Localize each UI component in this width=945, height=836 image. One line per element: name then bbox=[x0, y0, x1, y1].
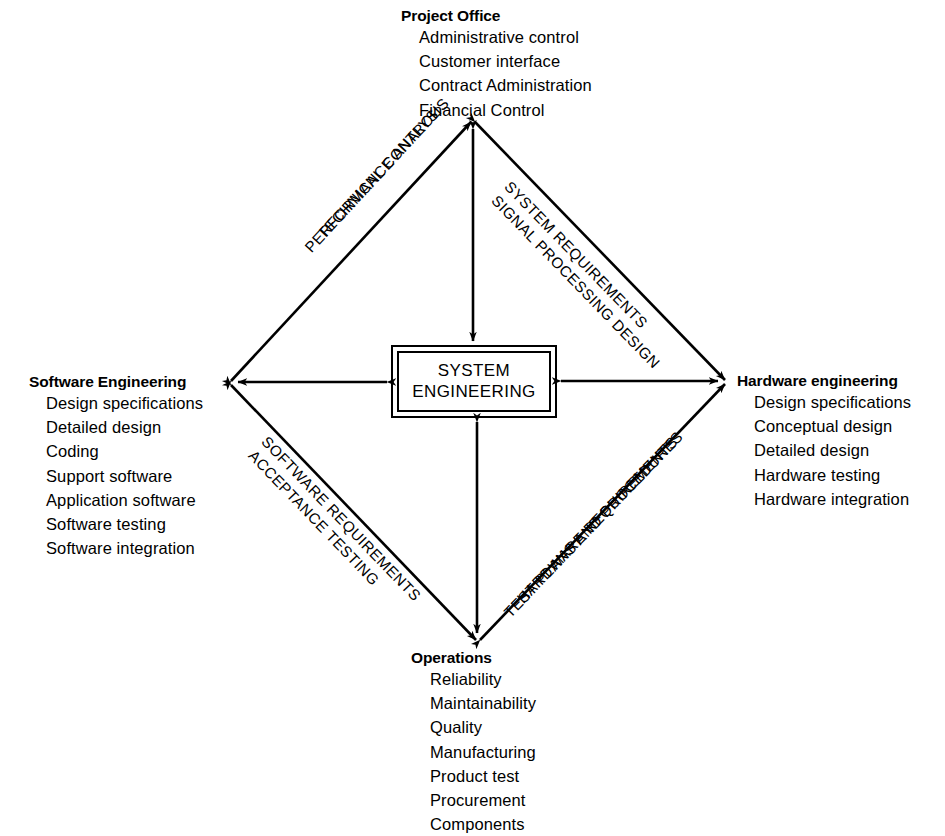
list-item: Manufacturing bbox=[430, 740, 536, 764]
corner-heading-software-engineering: Software Engineering bbox=[29, 372, 203, 391]
corner-items-software-engineering: Design specifications Detailed design Co… bbox=[46, 391, 203, 560]
system-engineering-label: SYSTEM ENGINEERING bbox=[412, 361, 535, 402]
list-item: Design specifications bbox=[754, 390, 911, 414]
list-item: Application software bbox=[46, 488, 203, 512]
list-item: Contract Administration bbox=[419, 73, 592, 97]
list-item: Coding bbox=[46, 439, 203, 463]
corner-software-engineering: Software Engineering Design specificatio… bbox=[29, 372, 203, 560]
corner-heading-operations: Operations bbox=[411, 648, 536, 667]
list-item: Components bbox=[430, 812, 536, 836]
list-item: Detailed design bbox=[754, 438, 911, 462]
list-item: Design specifications bbox=[46, 391, 203, 415]
corner-hardware-engineering: Hardware engineering Design specificatio… bbox=[737, 371, 911, 511]
list-item: Product test bbox=[430, 764, 536, 788]
corner-heading-hardware-engineering: Hardware engineering bbox=[737, 371, 911, 390]
list-item: Support software bbox=[46, 464, 203, 488]
list-item: Hardware integration bbox=[754, 487, 911, 511]
list-item: Hardware testing bbox=[754, 463, 911, 487]
list-item: Administrative control bbox=[419, 25, 592, 49]
corner-items-operations: Reliability Maintainability Quality Manu… bbox=[430, 667, 536, 836]
edge-lower-left bbox=[231, 385, 476, 640]
list-item: Detailed design bbox=[46, 415, 203, 439]
edge-upper-left bbox=[231, 122, 471, 381]
list-item: Quality bbox=[430, 715, 536, 739]
corner-heading-project-office: Project Office bbox=[401, 6, 592, 25]
corner-operations: Operations Reliability Maintainability Q… bbox=[411, 648, 536, 836]
list-item: Maintainability bbox=[430, 691, 536, 715]
list-item: Reliability bbox=[430, 667, 536, 691]
edge-upper-right bbox=[475, 122, 725, 380]
list-item: Software integration bbox=[46, 536, 203, 560]
list-item: Procurement bbox=[430, 788, 536, 812]
list-item: Software testing bbox=[46, 512, 203, 536]
system-engineering-box: SYSTEM ENGINEERING bbox=[391, 345, 557, 418]
list-item: Conceptual design bbox=[754, 414, 911, 438]
list-item: Customer interface bbox=[419, 49, 592, 73]
corner-items-hardware-engineering: Design specifications Conceptual design … bbox=[754, 390, 911, 511]
system-engineering-box-inner: SYSTEM ENGINEERING bbox=[397, 351, 551, 412]
